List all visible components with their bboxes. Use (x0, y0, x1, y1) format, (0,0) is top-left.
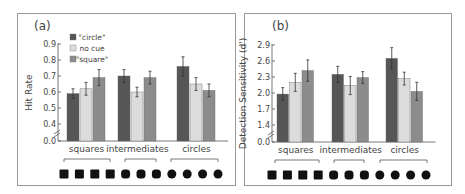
circle-shape-icon (345, 171, 354, 180)
circle-shape-icon (375, 171, 384, 180)
y-tick-label: 1.4 (257, 121, 270, 130)
bar (386, 58, 398, 142)
chart-b-detection-sensitivity: (b)0.01.41.72.02.32.62.9Detection Sensit… (0, 0, 465, 194)
bar (332, 74, 344, 142)
circle-shape-icon (422, 171, 431, 180)
circle-shape-icon (360, 171, 369, 180)
y-tick-label: 0.0 (257, 138, 270, 147)
bar (399, 79, 411, 142)
circle-shape-icon (329, 171, 338, 180)
category-label: squares (278, 145, 314, 155)
y-tick-label: 2.3 (257, 73, 270, 82)
category-label: intermediates (319, 145, 382, 155)
y-tick-label: 2.9 (257, 41, 270, 50)
panel-label: (b) (272, 19, 289, 33)
square-shape-icon (283, 171, 292, 180)
circle-shape-icon (391, 171, 400, 180)
square-shape-icon (298, 171, 307, 180)
y-tick-label: 2.0 (257, 89, 270, 98)
square-shape-icon (268, 171, 277, 180)
group-bracket (334, 160, 364, 163)
axis-break-icon (268, 131, 274, 138)
square-shape-icon (314, 171, 323, 180)
circle-shape-icon (406, 171, 415, 180)
y-axis-label: Detection Sensitivity (d') (238, 38, 248, 150)
group-bracket (380, 160, 427, 163)
bar (277, 94, 289, 142)
group-bracket (275, 160, 319, 163)
y-tick-label: 1.7 (257, 105, 270, 114)
y-tick-label: 2.6 (257, 57, 270, 66)
bar (357, 78, 369, 142)
category-label: circles (390, 145, 419, 155)
